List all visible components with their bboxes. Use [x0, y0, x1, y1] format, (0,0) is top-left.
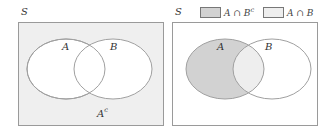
- set-a-label-left: A: [61, 41, 69, 52]
- universe-label-left: S: [21, 6, 28, 17]
- legend-swatch-a-minus-b: [201, 8, 221, 18]
- right-venn-diagram: S A ∩ Bc A ∩ B A B: [173, 6, 318, 126]
- left-venn-diagram: S A B Ac: [19, 6, 164, 126]
- legend: A ∩ Bc A ∩ B: [201, 6, 314, 18]
- set-a-label-right: A: [216, 41, 224, 52]
- legend-label-a-minus-b: A ∩ Bc: [223, 6, 254, 18]
- legend-swatch-a-and-b: [264, 8, 284, 18]
- set-b-label-left: B: [109, 41, 117, 52]
- legend-label-a-and-b: A ∩ B: [286, 8, 314, 18]
- set-b-label-right: B: [264, 41, 272, 52]
- universe-label-right: S: [175, 6, 182, 17]
- venn-diagrams: S A B Ac S A ∩ Bc A ∩ B A B: [0, 0, 331, 135]
